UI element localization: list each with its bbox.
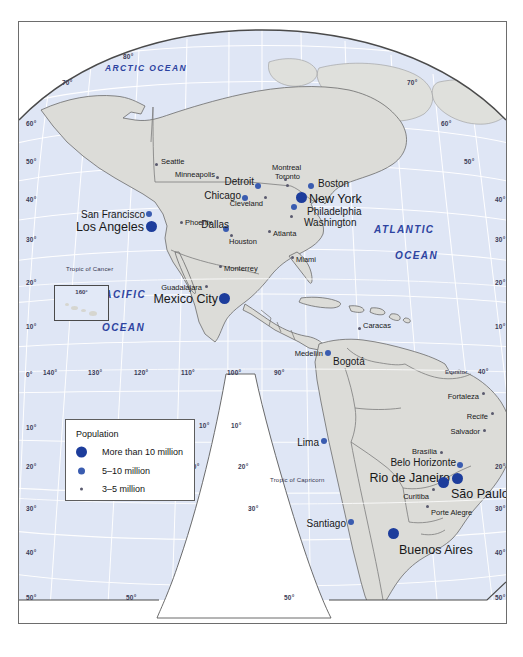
- city-dot: [205, 285, 208, 288]
- graticule-degree-label: 50°: [126, 595, 136, 602]
- city-label: Cleveland: [230, 200, 263, 208]
- ocean-label: OCEAN: [102, 323, 145, 333]
- city-label: Boston: [318, 179, 349, 189]
- city-dot: [358, 327, 361, 330]
- graticule-degree-label: 70°: [62, 80, 72, 87]
- graticule-degree-label: 40°: [478, 369, 488, 376]
- hawaii-inset-box: 160°: [54, 285, 109, 321]
- graticule-degree-label: 90°: [274, 370, 284, 377]
- city-label: Bogotá: [333, 357, 365, 367]
- inset-island-shape: [81, 309, 86, 312]
- city-label: New York: [309, 193, 362, 206]
- graticule-degree-label: 40°: [495, 550, 505, 557]
- city-dot: [438, 477, 449, 488]
- geo-reference-label: Tropic of Cancer: [66, 266, 113, 272]
- city-label: Mexico City: [153, 293, 218, 306]
- city-label: Belo Horizonte: [390, 458, 456, 468]
- legend-label-more-than-10-million: More than 10 million: [102, 447, 183, 457]
- city-dot: [216, 176, 219, 179]
- graticule-degree-label: 40°: [26, 550, 36, 557]
- graticule-degree-label: 10°: [231, 423, 241, 430]
- city-label: Houston: [229, 238, 257, 246]
- city-label: San Francisco: [81, 210, 145, 220]
- city-label: Los Angeles: [76, 221, 144, 234]
- city-label: Santiago: [307, 519, 346, 529]
- graticule-degree-label: 20°: [26, 280, 36, 287]
- map-screenshot: ARCTIC OCEANPACIFICOCEANATLANTICOCEAN Tr…: [0, 0, 523, 657]
- graticule-degree-label: 140°: [43, 370, 57, 377]
- inset-island-shape: [65, 303, 69, 306]
- city-label: Monterrey: [224, 265, 258, 273]
- city-label: Caracas: [363, 322, 391, 330]
- graticule-degree-label: 80°: [123, 54, 133, 61]
- graticule-degree-label: 40°: [495, 197, 505, 204]
- graticule-degree-label: 20°: [495, 464, 505, 471]
- city-dot: [491, 412, 494, 415]
- map-frame: ARCTIC OCEANPACIFICOCEANATLANTICOCEAN Tr…: [18, 21, 507, 624]
- city-dot: [452, 473, 463, 484]
- city-dot: [426, 505, 429, 508]
- graticule-degree-label: 50°: [495, 595, 505, 602]
- legend-large-dot-icon: [76, 447, 87, 458]
- city-label: Fortaleza: [448, 393, 479, 401]
- graticule-degree-label: 10°: [199, 423, 209, 430]
- ocean-label: ATLANTIC: [374, 225, 434, 235]
- city-label: Atlanta: [273, 230, 296, 238]
- city-dot: [440, 451, 443, 454]
- graticule-degree-label: 20°: [26, 464, 36, 471]
- graticule-degree-label: 20°: [495, 280, 505, 287]
- city-label: Recife: [467, 413, 488, 421]
- city-label: São Paulo: [451, 488, 507, 501]
- city-label: Curitiba: [403, 493, 429, 501]
- city-label: Porte Alegre: [431, 509, 472, 517]
- city-dot: [432, 488, 435, 491]
- geo-reference-label: Equator: [445, 369, 467, 375]
- city-label: Buenos Aires: [399, 544, 473, 557]
- graticule-degree-label: 50°: [26, 159, 36, 166]
- city-label: Guadalajara: [161, 284, 202, 292]
- graticule-degree-label: 0°: [26, 372, 33, 379]
- graticule-degree-label: 30°: [495, 506, 505, 513]
- city-dot: [155, 163, 158, 166]
- legend-title: Population: [76, 429, 119, 439]
- city-label: Miami: [296, 256, 316, 264]
- graticule-degree-label: 60°: [26, 121, 36, 128]
- city-label: Detroit: [225, 177, 254, 187]
- city-label: Salvador: [450, 428, 480, 436]
- city-dot: [290, 215, 293, 218]
- city-dot: [219, 265, 222, 268]
- graticule-degree-label: 10°: [26, 425, 36, 432]
- graticule-degree-label: 30°: [26, 237, 36, 244]
- city-label: Lima: [297, 438, 319, 448]
- city-label: Seattle: [161, 158, 184, 166]
- city-dot: [482, 392, 485, 395]
- legend-label-3-to-5-million: 3–5 million: [102, 484, 145, 494]
- graticule-degree-label: 50°: [284, 595, 294, 602]
- city-dot: [388, 528, 399, 539]
- population-legend: Population More than 10 million 5–10 mil…: [65, 419, 195, 501]
- graticule-degree-label: 10°: [26, 324, 36, 331]
- graticule-degree-label: 50°: [464, 159, 474, 166]
- geo-reference-label: Tropic of Capricorn: [270, 477, 325, 483]
- city-dot: [146, 221, 157, 232]
- city-dot: [483, 429, 486, 432]
- inset-island-shape: [89, 311, 97, 316]
- city-dot: [286, 184, 289, 187]
- city-dot: [291, 256, 294, 259]
- city-label: Philadelphia: [307, 207, 362, 217]
- graticule-degree-label: 30°: [495, 237, 505, 244]
- graticule-degree-label: 70°: [407, 80, 417, 87]
- ocean-label: ARCTIC OCEAN: [105, 64, 187, 73]
- graticule-degree-label: 50°: [26, 595, 36, 602]
- city-label: Brasília: [412, 448, 437, 456]
- graticule-degree-label: 60°: [441, 121, 451, 128]
- legend-medium-dot-icon: [78, 468, 85, 475]
- city-label: Medellín: [295, 350, 323, 358]
- city-label: Montreal: [272, 164, 301, 172]
- inset-longitude-label: 160°: [75, 289, 87, 295]
- legend-small-dot-icon: [80, 488, 83, 491]
- graticule-degree-label: 30°: [248, 506, 258, 513]
- graticule-degree-label: 30°: [26, 506, 36, 513]
- city-dot: [180, 221, 183, 224]
- city-label: Washington: [304, 218, 356, 228]
